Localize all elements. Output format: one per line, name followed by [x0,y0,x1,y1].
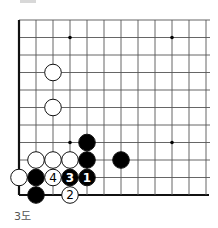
star-point [170,36,174,40]
star-point [68,141,72,145]
white-stone [45,64,62,81]
star-point [170,141,174,145]
white-stone: 2 [62,187,79,204]
stone-disc [62,152,79,169]
black-stone: 3 [62,169,79,186]
stone-disc [11,169,28,186]
white-stone: 4 [45,169,62,186]
go-board: 4312 [0,0,218,228]
white-stone [28,152,45,169]
black-stone: 1 [79,169,96,186]
stone-disc [45,99,62,116]
black-stone [113,152,130,169]
white-stone [62,152,79,169]
stone-disc [79,152,96,169]
move-number-label: 1 [83,171,91,185]
black-stone [79,134,96,151]
move-number-label: 3 [66,171,74,185]
stone-disc [28,187,45,204]
move-number-label: 2 [66,188,74,202]
stone-disc [28,169,45,186]
stone-disc [79,134,96,151]
star-point [68,36,72,40]
stone-disc [28,152,45,169]
move-number-label: 4 [49,171,57,185]
black-stone [28,187,45,204]
stone-disc [45,152,62,169]
stone-disc [45,64,62,81]
black-stone [79,152,96,169]
diagram-caption: 3도 [14,207,31,223]
white-stone [11,169,28,186]
white-stone [45,99,62,116]
black-stone [28,169,45,186]
white-stone [45,152,62,169]
stone-disc [113,152,130,169]
